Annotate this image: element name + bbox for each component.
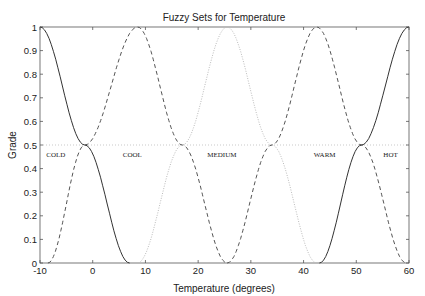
set-label: HOT bbox=[383, 151, 398, 159]
set-label: WARM bbox=[314, 151, 337, 159]
set-label: COOL bbox=[123, 151, 142, 159]
x-tick-label: 0 bbox=[90, 265, 95, 276]
y-tick-label: 0.3 bbox=[24, 187, 37, 198]
chart-title: Fuzzy Sets for Temperature bbox=[163, 12, 286, 23]
y-tick-label: 1 bbox=[32, 22, 37, 33]
x-tick-label: -10 bbox=[33, 265, 47, 276]
fuzzy-sets-chart: Fuzzy Sets for Temperature 00.10.20.30.4… bbox=[0, 0, 425, 296]
x-tick-label: 10 bbox=[140, 265, 151, 276]
set-label: COLD bbox=[46, 151, 65, 159]
set-labels: COLDCOOLMEDIUMWARMHOT bbox=[46, 151, 398, 159]
y-axis: 00.10.20.30.40.50.60.70.80.91 bbox=[24, 22, 409, 269]
curve-cool bbox=[48, 27, 227, 263]
x-tick-label: 40 bbox=[298, 265, 309, 276]
y-tick-label: 0.8 bbox=[24, 69, 37, 80]
y-axis-label: Grade bbox=[7, 131, 18, 159]
y-tick-label: 0.4 bbox=[24, 163, 37, 174]
x-tick-label: 60 bbox=[404, 265, 415, 276]
plot-area bbox=[40, 27, 409, 263]
y-tick-label: 0.1 bbox=[24, 234, 37, 245]
y-tick-label: 0.2 bbox=[24, 210, 37, 221]
y-tick-label: 0.7 bbox=[24, 92, 37, 103]
y-tick-label: 0.5 bbox=[24, 140, 37, 151]
x-tick-label: 50 bbox=[351, 265, 362, 276]
axes-frame bbox=[40, 27, 409, 263]
x-tick-label: 20 bbox=[193, 265, 204, 276]
x-tick-label: 30 bbox=[246, 265, 257, 276]
y-tick-label: 0.9 bbox=[24, 45, 37, 56]
y-tick-label: 0.6 bbox=[24, 116, 37, 127]
x-axis-label: Temperature (degrees) bbox=[173, 283, 275, 294]
set-label: MEDIUM bbox=[207, 151, 237, 159]
